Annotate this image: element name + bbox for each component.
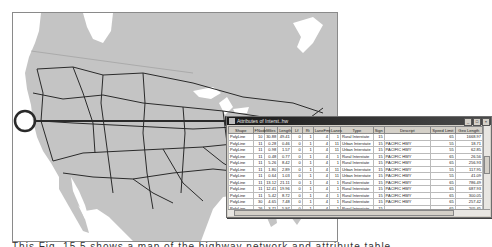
minimize-button[interactable]: _ bbox=[464, 118, 472, 126]
column-header[interactable]: LaneFmt bbox=[313, 127, 329, 134]
column-header[interactable]: Geo Length bbox=[455, 127, 482, 134]
column-header[interactable]: Lf bbox=[291, 127, 302, 134]
table-cell: 13.12 bbox=[264, 179, 278, 186]
table-cell: Rural Interstate bbox=[340, 192, 373, 199]
column-header[interactable]: Lanes bbox=[330, 127, 341, 134]
table-cell: 49.41 bbox=[278, 134, 292, 141]
table-cell: 30.88 bbox=[264, 134, 278, 141]
column-header[interactable]: Shape bbox=[229, 127, 254, 134]
maximize-button[interactable]: □ bbox=[473, 118, 481, 126]
table-cell: Rural Interstate bbox=[340, 134, 373, 141]
column-header[interactable]: Sign bbox=[373, 127, 384, 134]
column-header[interactable]: Type bbox=[340, 127, 373, 134]
scroll-thumb[interactable] bbox=[484, 156, 490, 174]
highlight-circle bbox=[15, 111, 35, 131]
table-cell: Rural Interstate bbox=[340, 179, 373, 186]
close-button[interactable]: × bbox=[482, 118, 490, 126]
scroll-thumb[interactable] bbox=[234, 210, 454, 216]
table-cell: Urban Interstate bbox=[340, 166, 373, 173]
table-cell: 12.41 bbox=[264, 186, 278, 193]
figure-caption: This Fig. 15.5 shows a map of the highwa… bbox=[12, 241, 391, 247]
table-body: PolyLine1030.8849.410141Rural Interstate… bbox=[229, 134, 483, 210]
table-cell: Urban Interstate bbox=[340, 173, 373, 180]
attribute-grid[interactable]: ShapeFNodeMilesLengthLfRtLaneFmtLanesTyp… bbox=[228, 126, 483, 209]
header-row: ShapeFNodeMilesLengthLfRtLaneFmtLanesTyp… bbox=[229, 127, 483, 134]
table-cell: Rural Interstate bbox=[340, 153, 373, 160]
column-header[interactable]: Miles bbox=[264, 127, 278, 134]
table-cell: Urban Interstate bbox=[340, 140, 373, 147]
column-header[interactable]: Rt bbox=[302, 127, 313, 134]
table-cell: Urban Interstate bbox=[340, 147, 373, 154]
window-title: Attributes of Interst..hw bbox=[237, 118, 288, 124]
window-title-bar[interactable]: Attributes of Interst..hw _ □ × bbox=[227, 117, 491, 125]
table-cell: Rural Interstate bbox=[340, 186, 373, 193]
table-cell: Rural Interstate bbox=[340, 199, 373, 206]
column-header[interactable]: Speed Limit bbox=[431, 127, 456, 134]
table-cell: 21.11 bbox=[278, 179, 292, 186]
attribute-table-window[interactable]: Attributes of Interst..hw _ □ × ShapeFNo… bbox=[226, 116, 492, 218]
column-header[interactable]: Descript bbox=[384, 127, 430, 134]
table-icon bbox=[229, 118, 235, 124]
attribute-table: ShapeFNodeMilesLengthLfRtLaneFmtLanesTyp… bbox=[228, 126, 483, 209]
column-header[interactable]: Length bbox=[278, 127, 292, 134]
vertical-scrollbar[interactable] bbox=[483, 126, 490, 209]
table-cell: Rural Interstate bbox=[340, 160, 373, 167]
table-cell: 19.96 bbox=[278, 186, 292, 193]
horizontal-scrollbar[interactable] bbox=[228, 209, 490, 216]
column-header[interactable]: FNode bbox=[253, 127, 264, 134]
